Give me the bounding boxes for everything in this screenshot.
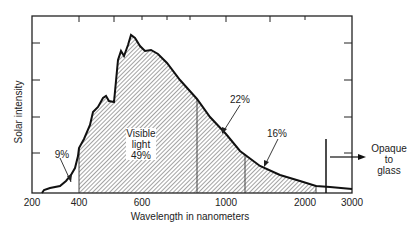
nir-percent-label: 22% xyxy=(230,94,250,105)
shaded-spectrum-area xyxy=(79,35,316,193)
visible-label-1: Visible xyxy=(126,128,156,139)
x-tick-200: 200 xyxy=(24,197,41,208)
opaque-label-1: Opaque xyxy=(371,143,407,154)
x-tick-600: 600 xyxy=(134,197,151,208)
solar-spectrum-chart: 9% Visible light 49% 22% 16% Opaque to g… xyxy=(0,0,419,230)
visible-label-3: 49% xyxy=(131,150,151,161)
visible-label-2: light xyxy=(132,139,151,150)
x-tick-400: 400 xyxy=(71,197,88,208)
uv-percent-label: 9% xyxy=(55,149,70,160)
opaque-label-2: to xyxy=(385,154,394,165)
top-ticks xyxy=(79,16,305,22)
x-tick-1000: 1000 xyxy=(215,197,238,208)
x-axis-label: Wavelength in nanometers xyxy=(131,211,250,222)
arrow-head-icon xyxy=(358,154,366,160)
x-tick-2000: 2000 xyxy=(294,197,317,208)
y-axis-label: Solar intensity xyxy=(13,81,24,144)
ir-percent-label: 16% xyxy=(267,128,287,139)
opaque-label-3: glass xyxy=(377,165,400,176)
x-tick-3000: 3000 xyxy=(341,197,364,208)
